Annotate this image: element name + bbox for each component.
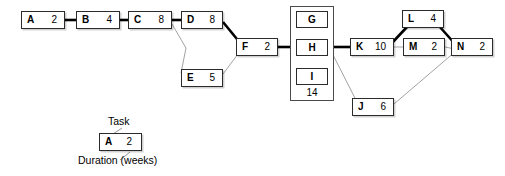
network-diagram-canvas: A2B4C8D8E5F2J6K10L4M2N2 GHI14 Task A 2 D…	[0, 0, 505, 176]
task-node-j[interactable]: J6	[352, 98, 394, 116]
task-node-b[interactable]: B4	[76, 11, 120, 29]
legend-duration-label: Duration (weeks)	[78, 155, 157, 166]
task-node-i[interactable]: I	[296, 68, 328, 85]
task-node-h-label: H	[308, 43, 315, 53]
task-node-a[interactable]: A2	[21, 11, 65, 29]
task-node-e[interactable]: E5	[181, 69, 223, 87]
legend-task-label: Task	[108, 116, 130, 127]
task-node-c-label: C	[129, 15, 141, 25]
task-node-e-label: E	[182, 73, 194, 83]
task-node-n-label: N	[452, 42, 464, 52]
task-node-j-label: J	[353, 102, 364, 112]
edge-j-to-n	[394, 51, 456, 104]
task-node-k[interactable]: K10	[350, 38, 394, 56]
task-node-m-label: M	[404, 42, 417, 52]
task-node-l-duration: 4	[430, 14, 443, 24]
task-node-i-label: I	[311, 72, 314, 82]
edge-c-to-e	[172, 24, 186, 73]
task-node-g[interactable]: G	[296, 11, 328, 28]
task-node-m[interactable]: M2	[403, 38, 445, 56]
task-node-k-label: K	[351, 42, 363, 52]
edge-ghi-to-j	[330, 49, 357, 102]
task-node-d[interactable]: D8	[181, 11, 223, 29]
task-node-h[interactable]: H	[296, 39, 328, 56]
task-node-e-duration: 5	[209, 73, 222, 83]
legend-sample-task: A	[100, 137, 112, 147]
legend-sample-duration: 2	[126, 137, 141, 147]
task-node-n[interactable]: N2	[451, 38, 493, 56]
task-node-l-label: L	[403, 14, 414, 24]
task-node-c[interactable]: C8	[128, 11, 172, 29]
legend-sample-node: A 2	[99, 133, 142, 151]
task-node-n-duration: 2	[479, 42, 492, 52]
parallel-group-ghi-duration: 14	[296, 88, 328, 98]
task-node-m-duration: 2	[431, 42, 444, 52]
task-node-a-duration: 2	[51, 15, 64, 25]
task-node-c-duration: 8	[158, 15, 171, 25]
task-node-f-duration: 2	[264, 42, 277, 52]
task-node-k-duration: 10	[375, 42, 393, 52]
task-node-f-label: F	[237, 42, 248, 52]
task-node-b-duration: 4	[106, 15, 119, 25]
task-node-l[interactable]: L4	[402, 10, 444, 28]
task-node-a-label: A	[22, 15, 34, 25]
task-node-d-label: D	[182, 15, 194, 25]
task-node-f[interactable]: F2	[236, 38, 278, 56]
task-node-j-duration: 6	[380, 102, 393, 112]
task-node-b-label: B	[77, 15, 89, 25]
task-node-g-label: G	[308, 15, 316, 25]
task-node-d-duration: 8	[209, 15, 222, 25]
